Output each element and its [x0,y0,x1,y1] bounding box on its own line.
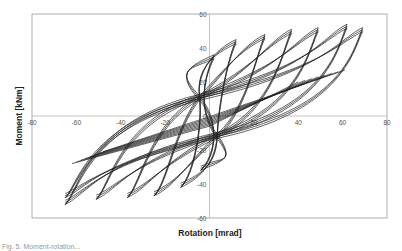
x-tick-label: 40 [295,119,303,126]
x-tick-label: -80 [27,119,37,126]
y-tick-label: -60 [197,215,207,222]
y-tick-label: 40 [199,45,207,52]
x-axis-title: Rotation [mrad] [178,228,241,238]
hysteresis-loop [65,28,362,198]
y-tick-label: 60 [199,11,207,18]
hysteresis-loops [65,24,362,204]
hysteresis-chart: -80-60-40-2020406080-60-40-200204060 Rot… [0,0,402,251]
y-tick-label: -40 [197,181,207,188]
y-axis-title: Moment [kNm] [14,86,24,145]
figure-caption: Fig. 5. Moment-rotation... [2,243,80,250]
x-tick-label: 80 [383,119,391,126]
x-tick-label: 60 [339,119,347,126]
x-tick-label: -40 [116,119,126,126]
x-tick-label: -60 [72,119,82,126]
